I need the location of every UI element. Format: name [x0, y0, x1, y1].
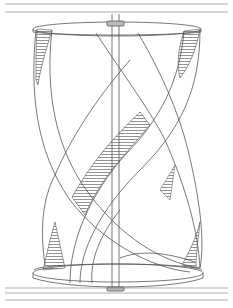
top-hub	[107, 21, 124, 26]
bottom-hub	[107, 287, 124, 291]
wind-turbine-diagram	[0, 0, 233, 308]
top-rail	[5, 4, 228, 12]
